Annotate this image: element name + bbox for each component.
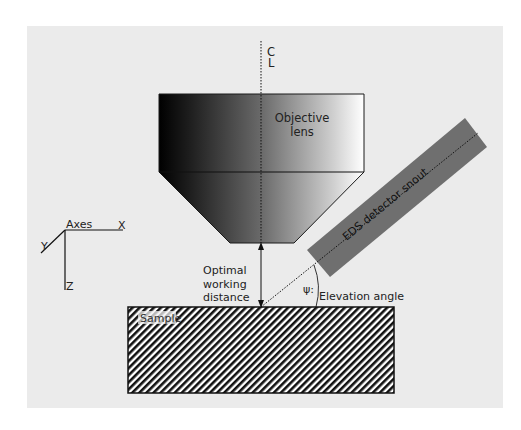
- axis-y-label: Y: [41, 240, 48, 253]
- working-distance-line1: Optimal: [203, 264, 250, 278]
- axis-z-label: Z: [66, 280, 74, 293]
- psi-symbol: ψ:: [303, 283, 314, 296]
- objective-lens-label-line2: lens: [272, 126, 332, 139]
- axis-x-label: X: [118, 219, 126, 232]
- elevation-angle-label: Elevation angle: [319, 290, 404, 303]
- sample-label: Sample: [140, 312, 181, 325]
- objective-lens-label: Objective lens: [272, 112, 332, 139]
- centerline-label-l: L: [268, 57, 274, 70]
- working-distance-line3: distance: [203, 291, 250, 305]
- working-distance-line2: working: [203, 278, 250, 292]
- axes-title: Axes: [66, 218, 92, 231]
- diagram-canvas: [0, 0, 521, 430]
- objective-lens-label-line1: Objective: [272, 112, 332, 125]
- working-distance-label: Optimal working distance: [203, 264, 250, 305]
